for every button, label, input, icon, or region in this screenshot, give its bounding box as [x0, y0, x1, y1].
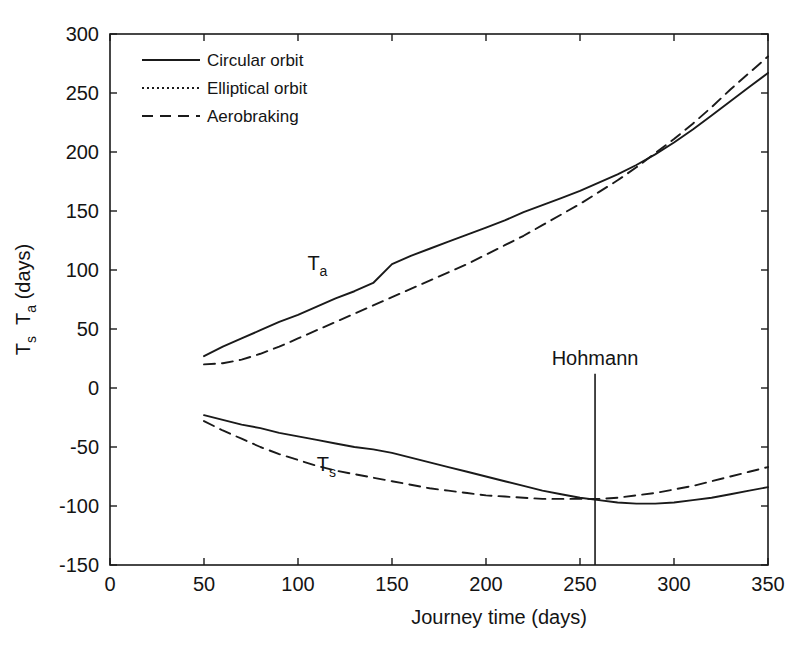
y-tick-label: 150 — [66, 200, 99, 222]
x-tick-label: 250 — [563, 573, 596, 595]
y-tick-label: 250 — [66, 82, 99, 104]
y-tick-label: 50 — [77, 318, 99, 340]
chart-svg: 050100150200250300350-150-100-5005010015… — [0, 0, 792, 647]
x-tick-label: 0 — [104, 573, 115, 595]
legend-layer: Circular orbitElliptical orbitAerobrakin… — [142, 51, 307, 126]
chart-figure: 050100150200250300350-150-100-5005010015… — [0, 0, 792, 647]
legend-label-circular-orbit: Circular orbit — [207, 51, 304, 70]
series-ts-circular-orbit — [204, 415, 768, 504]
hohmann-label: Hohmann — [552, 347, 639, 369]
x-tick-label: 300 — [657, 573, 690, 595]
y-axis-title: Ts Ta (days) — [12, 244, 39, 355]
y-tick-label: -150 — [59, 554, 99, 576]
y-tick-label: -50 — [70, 436, 99, 458]
ts-label: Ts — [317, 453, 336, 480]
x-tick-label: 200 — [469, 573, 502, 595]
y-tick-label: 0 — [88, 377, 99, 399]
legend-label-aerobraking: Aerobraking — [207, 107, 299, 126]
axes-layer: 050100150200250300350-150-100-5005010015… — [59, 23, 785, 595]
x-tick-label: 100 — [281, 573, 314, 595]
x-tick-label: 350 — [751, 573, 784, 595]
y-tick-label: 300 — [66, 23, 99, 45]
series-ts-aerobraking — [204, 421, 768, 499]
y-tick-label: 200 — [66, 141, 99, 163]
legend-label-elliptical-orbit: Elliptical orbit — [207, 79, 307, 98]
x-axis-title: Journey time (days) — [411, 606, 587, 628]
x-tick-label: 50 — [193, 573, 215, 595]
x-tick-label: 150 — [375, 573, 408, 595]
y-tick-label: 100 — [66, 259, 99, 281]
ta-label: Ta — [307, 252, 327, 279]
y-tick-label: -100 — [59, 495, 99, 517]
annotations-layer: HohmannTaTs — [307, 252, 638, 565]
